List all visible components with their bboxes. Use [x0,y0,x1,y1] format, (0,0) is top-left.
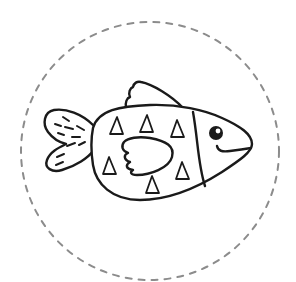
tail-fin [45,110,94,171]
eye [209,126,223,140]
fish-illustration [0,0,296,282]
fish [45,82,252,200]
